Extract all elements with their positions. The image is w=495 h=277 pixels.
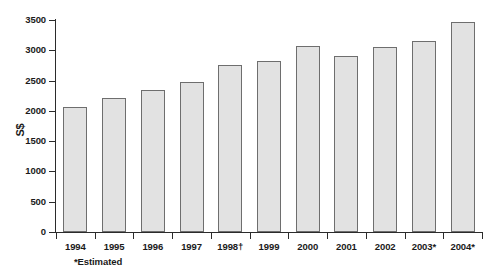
y-tick-mark: [49, 50, 56, 51]
bar: [141, 90, 165, 232]
plot-area: [56, 20, 482, 232]
y-tick-mark: [49, 111, 56, 112]
bar: [218, 65, 242, 232]
x-tick-mark: [172, 233, 173, 239]
x-tick-label: 2003*: [405, 241, 444, 252]
y-tick-label: 0: [2, 226, 46, 237]
bar: [296, 46, 320, 232]
x-tick-label: 1996: [133, 241, 172, 252]
x-tick-label: 1994: [56, 241, 95, 252]
bar: [451, 22, 475, 232]
y-tick-label: 2000: [2, 105, 46, 116]
bar: [102, 98, 126, 232]
y-tick-label: 1500: [2, 135, 46, 146]
y-tick-label: 2500: [2, 75, 46, 86]
x-tick-label: 2002: [366, 241, 405, 252]
x-tick-mark: [95, 233, 96, 239]
x-tick-mark: [482, 233, 483, 239]
x-tick-label: 1997: [172, 241, 211, 252]
x-tick-mark: [250, 233, 251, 239]
chart-footnote: *Estimated: [74, 256, 122, 267]
x-tick-label: 2000: [288, 241, 327, 252]
x-axis-line: [55, 232, 483, 233]
x-tick-label: 1998†: [211, 241, 250, 252]
x-tick-mark: [443, 233, 444, 239]
bar: [63, 107, 87, 232]
bar: [257, 61, 281, 232]
x-tick-mark: [56, 233, 57, 239]
x-tick-mark: [288, 233, 289, 239]
bar: [373, 47, 397, 232]
y-tick-mark: [49, 171, 56, 172]
bar-chart: S$ 0500100015002000250030003500 19941995…: [0, 0, 495, 277]
y-tick-label: 1000: [2, 165, 46, 176]
y-tick-mark: [49, 232, 56, 233]
x-tick-label: 2004*: [443, 241, 482, 252]
x-tick-mark: [327, 233, 328, 239]
bar: [180, 82, 204, 232]
x-tick-mark: [211, 233, 212, 239]
y-tick-label: 3500: [2, 14, 46, 25]
bar: [412, 41, 436, 232]
y-tick-mark: [49, 81, 56, 82]
x-tick-mark: [405, 233, 406, 239]
y-tick-mark: [49, 202, 56, 203]
bar: [334, 56, 358, 232]
x-tick-mark: [366, 233, 367, 239]
x-tick-label: 1995: [95, 241, 134, 252]
y-tick-mark: [49, 141, 56, 142]
x-tick-label: 2001: [327, 241, 366, 252]
y-tick-label: 3000: [2, 44, 46, 55]
x-tick-label: 1999: [250, 241, 289, 252]
x-tick-mark: [133, 233, 134, 239]
y-tick-label: 500: [2, 196, 46, 207]
y-tick-mark: [49, 20, 56, 21]
